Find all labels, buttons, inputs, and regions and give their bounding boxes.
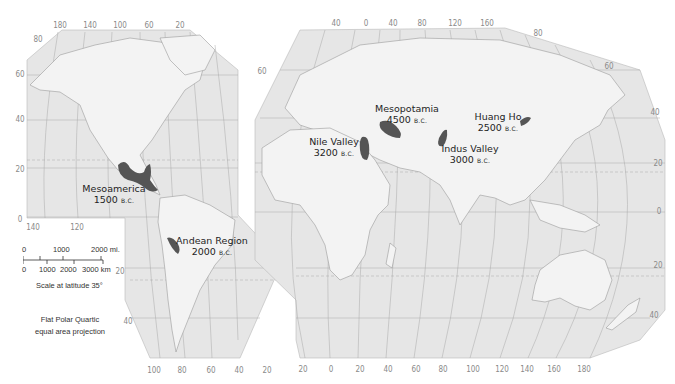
site-label-huang-ho: Huang Ho 2500 B.C. [474, 112, 521, 134]
site-era: B.C. [414, 117, 427, 124]
site-label-mesoamerica: Mesoamerica 1500 B.C. [82, 184, 145, 206]
western-panel [27, 30, 282, 358]
scale-km-2000: 2000 [60, 265, 77, 274]
tick-lat: 60 [257, 68, 266, 76]
tick-lon: 120 [495, 366, 509, 374]
site-date: 4500 [387, 114, 411, 125]
tick-lon: 60 [411, 366, 420, 374]
tick-lat: 20 [653, 262, 662, 270]
tick-lon: 160 [547, 366, 561, 374]
tick-lon: 140 [520, 366, 534, 374]
tick-lon: 40 [388, 20, 397, 28]
projection-name: Flat Polar Quartic [30, 314, 110, 326]
projection-note: Flat Polar Quartic equal area projection [30, 314, 110, 338]
tick-lon: 0 [364, 20, 369, 28]
site-era: B.C. [477, 157, 490, 164]
site-era: B.C. [121, 197, 134, 204]
tick-lon: 60 [206, 367, 215, 375]
projection-type: equal area projection [30, 326, 110, 338]
scale-mi-1000: 1000 [53, 245, 70, 254]
scale-mi-0: 0 [22, 245, 26, 254]
eastern-panel [255, 28, 665, 358]
tick-lat: 80 [533, 30, 542, 38]
tick-lon: 40 [331, 20, 340, 28]
site-date: 3000 [450, 154, 474, 165]
tick-lon: 40 [234, 367, 243, 375]
tick-lon: 0 [329, 366, 334, 374]
tick-lon: 20 [355, 366, 364, 374]
site-date: 2500 [478, 122, 502, 133]
scale-km-1000: 1000 [39, 265, 56, 274]
tick-lat: 0 [18, 216, 23, 224]
tick-lon: 20 [175, 22, 184, 30]
scale-mi-2000: 2000 mi. [91, 245, 120, 254]
tick-lon: 140 [26, 224, 40, 232]
scale-km-3000: 3000 km [82, 265, 111, 274]
scale-ruler [23, 255, 123, 265]
tick-lat: 40 [650, 109, 659, 117]
tick-lon: 80 [177, 367, 186, 375]
tick-lon: 140 [83, 22, 97, 30]
tick-lat: 60 [15, 71, 24, 79]
tick-lat: 40 [649, 312, 658, 320]
site-era: B.C. [219, 249, 232, 256]
tick-lat: 20 [15, 166, 24, 174]
site-label-andean: Andean Region 2000 B.C. [176, 236, 248, 258]
tick-lon: 120 [448, 20, 462, 28]
tick-lat: 40 [123, 318, 132, 326]
site-label-indus: Indus Valley 3000 B.C. [441, 144, 498, 166]
site-date: 1500 [94, 194, 118, 205]
scale-km-0: 0 [22, 265, 26, 274]
tick-lon: 180 [53, 22, 67, 30]
tick-lon: 40 [383, 366, 392, 374]
tick-lon: 100 [147, 367, 161, 375]
tick-lon: 120 [70, 224, 84, 232]
site-era: B.C. [505, 125, 518, 132]
site-date: 2000 [192, 246, 216, 257]
tick-lon: 20 [262, 367, 271, 375]
site-label-mesopotamia: Mesopotamia 4500 B.C. [375, 104, 439, 126]
tick-lat: 40 [15, 116, 24, 124]
tick-lat: 80 [33, 36, 42, 44]
tick-lon: 80 [417, 20, 426, 28]
tick-lat: 0 [657, 208, 662, 216]
tick-lon: 180 [577, 366, 591, 374]
tick-lon: 20 [298, 366, 307, 374]
tick-lat: 20 [653, 160, 662, 168]
tick-lon: 60 [144, 22, 153, 30]
tick-lon: 160 [480, 20, 494, 28]
scale-caption: Scale at latitude 35° [36, 281, 103, 290]
tick-lon: 80 [438, 366, 447, 374]
tick-lat: 20 [115, 268, 124, 276]
site-era: B.C. [341, 150, 354, 157]
site-date: 3200 [314, 147, 338, 158]
tick-lon: 100 [113, 22, 127, 30]
tick-lat: 60 [604, 63, 613, 71]
site-label-nile: Nile Valley 3200 B.C. [309, 137, 359, 159]
tick-lon: 100 [466, 366, 480, 374]
